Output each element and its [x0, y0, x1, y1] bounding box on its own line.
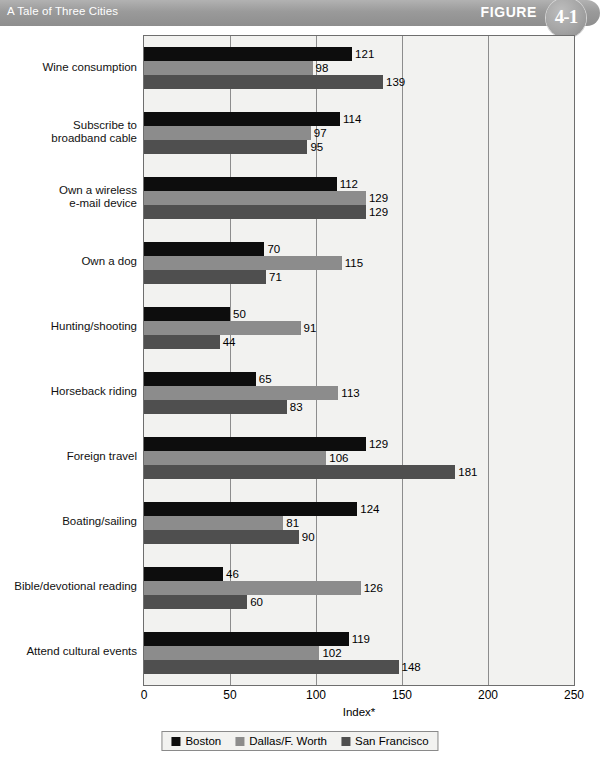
- legend-label: Boston: [185, 735, 221, 747]
- bar: [144, 256, 342, 270]
- bar: [144, 335, 220, 349]
- legend-item: San Francisco: [341, 735, 429, 747]
- bar-value-label: 65: [259, 372, 272, 386]
- bar-value-label: 70: [267, 242, 280, 256]
- bar-value-label: 90: [302, 530, 315, 544]
- bar: [144, 140, 307, 154]
- category-label: Foreign travel: [0, 450, 137, 464]
- x-axis-ticks: 050100150200250: [143, 688, 575, 708]
- bar-value-label: 97: [314, 126, 327, 140]
- bar: [144, 595, 247, 609]
- legend-swatch-icon: [341, 737, 350, 746]
- category-label: Subscribe tobroadband cable: [0, 119, 137, 146]
- bar: [144, 632, 349, 646]
- x-tick-label-50: 50: [223, 688, 236, 702]
- bar: [144, 386, 338, 400]
- bar-value-label: 102: [322, 646, 341, 660]
- legend-item: Dallas/F. Worth: [235, 735, 327, 747]
- bar-value-label: 119: [352, 632, 370, 646]
- x-tick-label-250: 250: [564, 688, 584, 702]
- category-label: Horseback riding: [0, 385, 137, 399]
- figure-number-text: 4-1: [546, 6, 586, 28]
- bar: [144, 177, 337, 191]
- bar: [144, 75, 383, 89]
- bar-value-label: 83: [290, 400, 303, 414]
- bar-value-label: 81: [286, 516, 299, 530]
- bar: [144, 581, 361, 595]
- legend-label: San Francisco: [355, 735, 429, 747]
- category-axis-labels: Wine consumptionSubscribe tobroadband ca…: [0, 35, 137, 686]
- bar: [144, 307, 230, 321]
- bar-value-label: 114: [343, 112, 361, 126]
- figure-number-badge: 4-1: [546, 0, 586, 38]
- bar-value-label: 50: [233, 307, 246, 321]
- bar: [144, 242, 264, 256]
- chart-legend: BostonDallas/F. WorthSan Francisco: [161, 731, 438, 751]
- bar-value-label: 113: [341, 386, 359, 400]
- figure-label: FIGURE: [481, 4, 538, 20]
- x-tick-label-0: 0: [141, 688, 148, 702]
- page-title: A Tale of Three Cities: [7, 5, 118, 17]
- bar-value-label: 71: [269, 270, 282, 284]
- x-tick-label-200: 200: [478, 688, 498, 702]
- bar-value-label: 44: [223, 335, 236, 349]
- category-label: Boating/sailing: [0, 515, 137, 529]
- bar-value-label: 129: [369, 191, 388, 205]
- x-tick-label-100: 100: [306, 688, 326, 702]
- legend-swatch-icon: [171, 737, 180, 746]
- bar-value-label: 98: [316, 61, 329, 75]
- category-label: Hunting/shooting: [0, 320, 137, 334]
- bar-value-label: 121: [355, 47, 374, 61]
- bar-value-label: 106: [329, 451, 348, 465]
- bar: [144, 112, 340, 126]
- bar: [144, 465, 455, 479]
- bar-value-label: 46: [226, 567, 239, 581]
- bar: [144, 437, 366, 451]
- bar-value-label: 126: [364, 581, 383, 595]
- bar-value-label: 181: [458, 465, 477, 479]
- bar: [144, 126, 311, 140]
- bar: [144, 646, 319, 660]
- bar-value-label: 60: [250, 595, 263, 609]
- bar: [144, 451, 326, 465]
- bar: [144, 205, 366, 219]
- bar: [144, 502, 357, 516]
- bar-value-label: 91: [304, 321, 317, 335]
- category-label: Own a wirelesse-mail device: [0, 184, 137, 211]
- bar: [144, 191, 366, 205]
- bar: [144, 47, 352, 61]
- x-axis-title: Index*: [143, 706, 575, 718]
- category-label: Own a dog: [0, 255, 137, 269]
- bar: [144, 270, 266, 284]
- legend-swatch-icon: [235, 737, 244, 746]
- category-label: Bible/devotional reading: [0, 580, 137, 594]
- legend-label: Dallas/F. Worth: [249, 735, 327, 747]
- bar-series-container: 1219813911497951121291297011571509144651…: [144, 36, 574, 685]
- bar-value-label: 112: [340, 177, 358, 191]
- x-tick-label-150: 150: [392, 688, 412, 702]
- bar-value-label: 115: [345, 256, 363, 270]
- bar: [144, 372, 256, 386]
- category-label: Attend cultural events: [0, 645, 137, 659]
- bar-value-label: 124: [360, 502, 379, 516]
- bar-value-label: 129: [369, 205, 388, 219]
- bar-value-label: 139: [386, 75, 405, 89]
- bar: [144, 516, 283, 530]
- category-label: Wine consumption: [0, 61, 137, 75]
- page-header-bar: A Tale of Three Cities FIGURE 4-1: [0, 0, 600, 26]
- bar: [144, 567, 223, 581]
- bar-value-label: 129: [369, 437, 388, 451]
- bar-value-label: 148: [402, 660, 421, 674]
- bar-value-label: 95: [310, 140, 323, 154]
- bar: [144, 400, 287, 414]
- bar: [144, 660, 399, 674]
- bar: [144, 321, 301, 335]
- legend-item: Boston: [171, 735, 221, 747]
- bar: [144, 61, 313, 75]
- bar: [144, 530, 299, 544]
